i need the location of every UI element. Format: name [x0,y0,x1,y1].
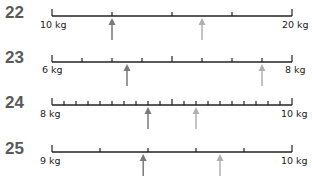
pointer-arrow-icon [109,18,116,25]
pointer-arrow-icon [217,154,224,161]
pointer-arrow-icon [124,64,131,71]
pointer-arrow-icon [145,107,152,114]
pointer-arrow-icon [199,18,206,25]
weight-scales-graphic [0,0,312,184]
pointer-arrow-icon [140,154,147,161]
pointer-arrow-icon [193,107,200,114]
pointer-arrow-icon [259,64,266,71]
